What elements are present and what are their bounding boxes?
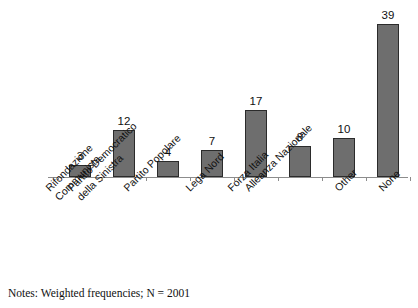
bar-value-label: 7	[192, 135, 232, 147]
bar-group: 39	[368, 8, 408, 177]
x-axis-tick	[410, 177, 411, 181]
bar-value-label: 10	[324, 123, 364, 135]
bar-group: 17	[236, 8, 276, 177]
x-axis-tick	[146, 177, 147, 181]
x-axis-tick	[190, 177, 191, 181]
bar	[377, 24, 399, 177]
x-axis-tick	[278, 177, 279, 181]
x-axis-tick	[322, 177, 323, 181]
x-axis-tick	[366, 177, 367, 181]
bar-group: 10	[324, 8, 364, 177]
x-axis-tick	[58, 177, 59, 181]
bar-group: 7	[192, 8, 232, 177]
x-axis-labels: RifondazioneCommunistaPartito Democratic…	[0, 177, 418, 277]
x-axis-tick	[102, 177, 103, 181]
bar-value-label: 39	[368, 9, 408, 21]
bar-value-label: 17	[236, 95, 276, 107]
bar	[157, 161, 179, 177]
chart-figure: 312471781039 RifondazioneCommunistaParti…	[0, 0, 418, 308]
x-axis-tick	[234, 177, 235, 181]
chart-notes: Notes: Weighted frequencies; N = 2001	[8, 287, 190, 299]
